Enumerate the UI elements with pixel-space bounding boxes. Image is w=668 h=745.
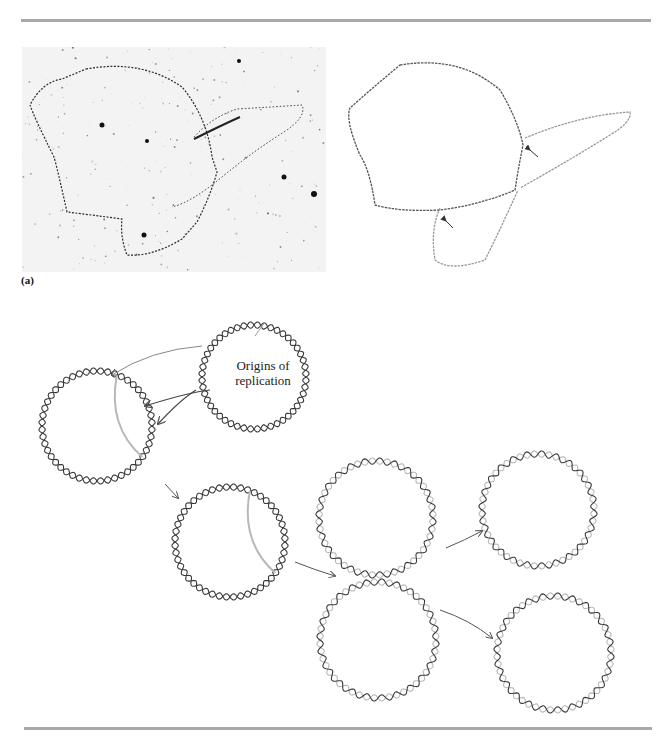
origins-annotation: Origins of replication	[218, 358, 308, 388]
panel-label-a: (a)	[21, 274, 34, 286]
dna-circle-daughter-1	[479, 451, 597, 569]
dna-circle-bubble-expanded	[172, 484, 288, 600]
stage-arrow-icon	[440, 610, 492, 638]
fork-arrow-icon	[446, 221, 453, 228]
dna-circle-nearly-complete-bottom	[317, 579, 439, 701]
bottom-rule	[24, 727, 652, 730]
dna-circle-nearly-complete-top	[316, 458, 436, 578]
stage-arrow-icon	[112, 346, 202, 375]
annotation-line-2: replication	[218, 373, 308, 388]
annotation-line-1: Origins of	[218, 358, 308, 373]
top-rule	[21, 19, 651, 22]
stage-arrow-icon	[446, 531, 482, 548]
dna-tracing	[340, 60, 650, 290]
replication-diagram: Origins of replication	[0, 300, 668, 720]
dna-circle-initiated	[39, 368, 155, 484]
origin-pointer-icon	[158, 390, 196, 424]
fork-arrow-icon	[530, 150, 538, 157]
replication-stages	[0, 300, 668, 720]
dna-circle-daughter-2	[494, 593, 614, 713]
micrograph-image	[22, 47, 326, 272]
stage-arrow-icon	[165, 484, 178, 498]
electron-micrograph	[22, 47, 326, 272]
stage-arrow-icon	[295, 562, 335, 576]
tracing-drawing	[340, 60, 650, 290]
